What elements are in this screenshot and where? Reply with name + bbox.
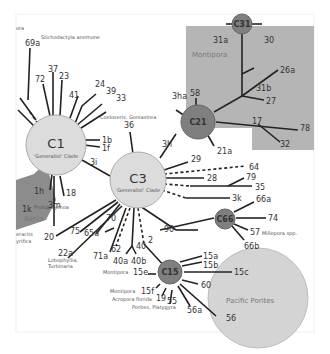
type-35: 35: [255, 183, 265, 192]
type-21a: 21a: [217, 147, 232, 156]
type-23: 23: [59, 72, 69, 81]
hub-c1-sublabel: 'Generalist' Clade: [34, 153, 78, 159]
host-montipora-15e: Montipora: [103, 269, 128, 276]
hub-c1-label: C1: [47, 136, 64, 151]
hub-c3-sublabel: 'Generalist' Clade: [116, 187, 160, 193]
type-40: 40: [136, 242, 146, 251]
type-30: 30: [264, 36, 274, 45]
type-33: 33: [116, 94, 126, 103]
type-24: 24: [95, 80, 105, 89]
type-70: 70: [106, 214, 116, 223]
hub-c15-label: C15: [161, 268, 178, 277]
type-65a: 65a: [84, 229, 99, 238]
type-40b: 40b: [131, 257, 146, 266]
type-37: 37: [48, 65, 58, 74]
type-64: 64: [249, 163, 259, 172]
type-2: 2: [148, 236, 153, 245]
type-31a: 31a: [213, 36, 228, 45]
type-71a: 71a: [93, 252, 108, 261]
type-40a: 40a: [113, 257, 128, 266]
type-79: 79: [246, 173, 256, 182]
host-coeloseris: Coeloseris, Goniastrea: [100, 114, 156, 120]
type-78: 78: [300, 124, 310, 133]
type-36: 36: [124, 121, 134, 130]
type-15a: 15a: [203, 252, 218, 261]
type-15e: 15e: [133, 268, 148, 277]
host-acropora: Acropora florida: [112, 296, 152, 303]
type-62: 62: [111, 245, 121, 254]
type-74: 74: [268, 214, 278, 223]
host-stichodactyla: Stichodactyla anemone: [41, 34, 100, 41]
left-fragment-2: yrifica: [16, 238, 31, 245]
type-75: 75: [70, 227, 80, 236]
type-90: 90: [164, 225, 174, 234]
type-15b: 15b: [203, 261, 218, 270]
host-turbinaria: Turbinaria: [47, 263, 73, 269]
type-72: 72: [35, 75, 45, 84]
type-27: 27: [266, 97, 276, 106]
type-28: 28: [207, 174, 217, 183]
left-fragment-1: eractis: [16, 231, 33, 237]
type-3k: 3k: [232, 194, 242, 203]
type-17: 17: [252, 117, 262, 126]
type-66a: 66a: [256, 195, 271, 204]
type-66b: 66b: [244, 242, 259, 251]
hub-c21-label: C21: [189, 118, 206, 127]
host-millepora: Millepora spp.: [262, 230, 297, 237]
type-22a: 22a: [58, 249, 73, 258]
type-18: 18: [66, 189, 76, 198]
hub-c3-label: C3: [129, 171, 146, 186]
hub-c66-label: C66: [216, 215, 233, 224]
type-1h: 1h: [34, 187, 44, 196]
type-39: 39: [106, 87, 116, 96]
type-29: 29: [191, 155, 201, 164]
type-57: 57: [250, 228, 260, 237]
type-41: 41: [69, 91, 79, 100]
type-60: 60: [201, 281, 211, 290]
type-15f: 15f: [141, 287, 154, 296]
type-56: 56: [226, 314, 236, 323]
hub-c31-label: C31: [233, 20, 250, 29]
type-58: 58: [190, 89, 200, 98]
region-pacific-porites-label: Pacific Porites: [226, 297, 275, 305]
region-montipora-label: Montipora: [192, 51, 227, 59]
haplotype-network-diagram: C1 'Generalist' Clade C3 'Generalist' Cl…: [0, 0, 330, 354]
type-20: 20: [44, 233, 54, 242]
type-56a: 56a: [187, 306, 202, 315]
region-xenia-label: Xenia: [24, 215, 43, 223]
type-3m: 3m: [48, 201, 61, 210]
top-left-fragment: ora: [16, 25, 24, 31]
type-26a: 26a: [280, 66, 295, 75]
host-montipora-15f: Montipora: [110, 288, 135, 295]
type-3i: 3i: [90, 158, 97, 167]
type-32: 32: [280, 140, 290, 149]
type-3h: 3h: [162, 140, 172, 149]
type-3ha: 3ha: [172, 92, 187, 101]
type-55: 55: [167, 297, 177, 306]
type-1f: 1f: [102, 144, 110, 153]
type-1k: 1k: [22, 205, 32, 214]
type-69a: 69a: [25, 39, 40, 48]
type-31b: 31b: [256, 84, 271, 93]
type-19: 19: [156, 294, 166, 303]
type-15c: 15c: [234, 268, 249, 277]
